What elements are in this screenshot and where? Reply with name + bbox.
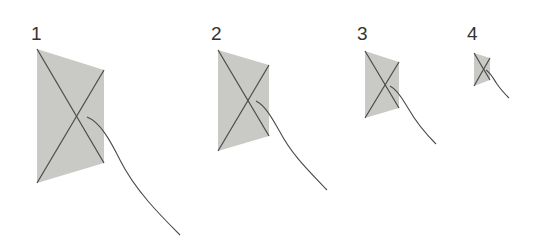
kite-sail	[365, 51, 399, 118]
kite-diagram	[0, 0, 535, 246]
kite-sail	[37, 49, 104, 183]
kite-2	[218, 50, 327, 190]
kite-3	[365, 51, 436, 144]
kite-sail	[218, 50, 269, 151]
kite-4	[474, 53, 509, 98]
kite-1	[37, 49, 180, 235]
